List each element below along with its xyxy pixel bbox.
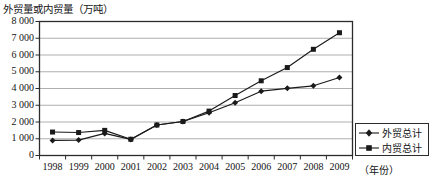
legend-label-waimao: 外贸总计 (382, 125, 422, 140)
y-tick-label: 2 000 (2, 117, 34, 127)
y-tick-label: 4 000 (2, 83, 34, 93)
y-tick-label: 7 000 (2, 33, 34, 43)
legend-item-waimao: 外贸总计 (358, 125, 426, 140)
x-axis-title: （年份） (359, 162, 399, 177)
series-waimao (50, 74, 343, 143)
diamond-marker-icon (358, 127, 380, 139)
x-tick-label: 2009 (324, 162, 354, 172)
y-tick-label: 3 000 (2, 100, 34, 110)
chart-legend: 外贸总计 内贸总计 (355, 123, 429, 156)
y-tick-label: 6 000 (2, 50, 34, 60)
line-chart: 外贸量或内贸量（万吨） 8 0007 0006 0005 0004 0003 0… (0, 0, 433, 189)
y-tick-label: 0 (2, 150, 34, 160)
square-marker-icon (358, 142, 380, 154)
y-tick-label: 1 000 (2, 133, 34, 143)
legend-item-neimao: 内贸总计 (358, 140, 426, 155)
gridlines (40, 22, 353, 139)
y-tick-label: 8 000 (2, 16, 34, 26)
y-tick-label: 5 000 (2, 66, 34, 76)
series-layer (50, 30, 343, 143)
series-neimao (50, 30, 342, 142)
legend-label-neimao: 内贸总计 (382, 140, 422, 155)
